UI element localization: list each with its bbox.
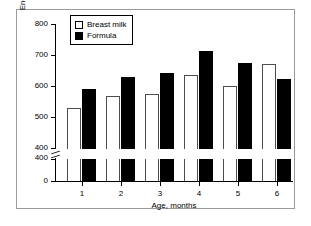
y-tick-700 — [51, 55, 56, 56]
x-tick-label-5: 5 — [226, 189, 250, 198]
x-axis-line — [55, 181, 293, 182]
legend-label-breast-milk: Breast milk — [87, 20, 127, 30]
y-tick-label-500: 500 — [14, 113, 48, 121]
x-tick-3 — [160, 182, 161, 186]
x-tick-label-2: 2 — [109, 189, 133, 198]
bar-formula-month-2 — [121, 77, 135, 149]
bar-stub-formula-month-1 — [82, 159, 96, 181]
bar-breast-milk-month-3 — [145, 94, 159, 149]
bar-stub-formula-month-2 — [121, 159, 135, 181]
bar-formula-month-3 — [160, 73, 174, 149]
bar-stub-breast-milk-month-4 — [184, 159, 198, 181]
y-axis-lower-segment — [55, 158, 56, 181]
bar-stub-formula-month-5 — [238, 159, 252, 181]
y-tick-label-700: 700 — [14, 51, 48, 59]
y-tick-0 — [51, 181, 56, 182]
legend-swatch-black-square-icon — [75, 32, 83, 40]
bar-stub-breast-milk-month-2 — [106, 159, 120, 181]
y-tick-400-lower — [51, 159, 56, 160]
bar-formula-month-5 — [238, 63, 252, 149]
x-tick-label-4: 4 — [187, 189, 211, 198]
y-tick-800 — [51, 24, 56, 25]
y-tick-label-0: 0 — [14, 177, 48, 185]
y-tick-label-400-upper: 400 — [14, 144, 48, 152]
bar-breast-milk-month-1 — [67, 108, 81, 149]
x-tick-4 — [199, 182, 200, 186]
legend-item-breast-milk: Breast milk — [75, 19, 127, 30]
bar-stub-breast-milk-month-6 — [262, 159, 276, 181]
x-tick-1 — [82, 182, 83, 186]
bar-stub-formula-month-4 — [199, 159, 213, 181]
bar-formula-month-4 — [199, 51, 213, 149]
bar-stub-formula-month-6 — [277, 159, 291, 181]
bar-breast-milk-month-4 — [184, 75, 198, 149]
bar-stub-breast-milk-month-5 — [223, 159, 237, 181]
y-tick-label-600: 600 — [14, 82, 48, 90]
legend: Breast milk Formula — [70, 15, 133, 45]
legend-swatch-white-square-icon — [75, 21, 83, 29]
bar-breast-milk-month-6 — [262, 64, 276, 149]
y-tick-label-400-lower: 400 — [14, 154, 48, 162]
x-tick-6 — [277, 182, 278, 186]
bar-stub-breast-milk-month-1 — [67, 159, 81, 181]
x-tick-label-6: 6 — [265, 189, 289, 198]
x-tick-5 — [238, 182, 239, 186]
x-tick-label-1: 1 — [70, 189, 94, 198]
bar-stub-formula-month-3 — [160, 159, 174, 181]
bar-breast-milk-month-2 — [106, 96, 120, 149]
bar-stub-breast-milk-month-3 — [145, 159, 159, 181]
x-tick-label-3: 3 — [148, 189, 172, 198]
y-tick-500 — [51, 117, 56, 118]
x-axis-title: Age, months — [55, 201, 293, 210]
x-tick-2 — [121, 182, 122, 186]
bar-formula-month-6 — [277, 79, 291, 149]
y-tick-label-800: 800 — [14, 20, 48, 28]
bar-breast-milk-month-5 — [223, 86, 237, 149]
bar-formula-month-1 — [82, 89, 96, 149]
legend-label-formula: Formula — [87, 31, 116, 41]
legend-item-formula: Formula — [75, 30, 127, 41]
y-tick-600 — [51, 86, 56, 87]
figure: Energy intake, kcal/day 800 700 600 500 … — [0, 0, 311, 226]
y-tick-400-upper — [51, 148, 56, 149]
